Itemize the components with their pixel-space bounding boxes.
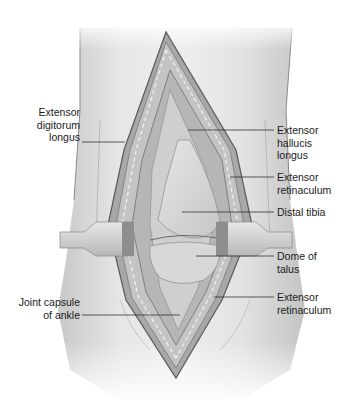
label-joint-capsule: Joint capsule of ankle: [2, 296, 80, 321]
label-distal-tibia: Distal tibia: [277, 206, 351, 219]
label-extensor-digitorum-longus: Extensor digitorum longus: [2, 106, 80, 144]
ankle-illustration: [0, 0, 352, 405]
label-extensor-retinaculum-upper: Extensor retinaculum: [277, 171, 351, 196]
label-extensor-hallucis-longus: Extensor hallucis longus: [277, 124, 351, 162]
label-dome-of-talus: Dome of talus: [277, 250, 351, 275]
label-extensor-retinaculum-lower: Extensor retinaculum: [277, 291, 351, 316]
